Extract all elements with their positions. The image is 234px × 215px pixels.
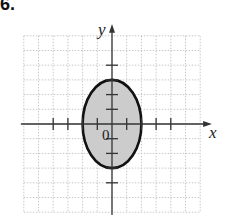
origin-label: 0 xyxy=(102,127,110,143)
x-axis-label: x xyxy=(208,123,217,142)
coordinate-plane: x y 0 xyxy=(0,0,234,215)
y-axis-label: y xyxy=(96,20,106,39)
